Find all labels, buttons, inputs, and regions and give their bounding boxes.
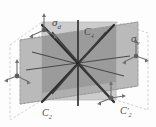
tripod-arrow-up [15, 59, 19, 63]
symmetry-diagram-svg [0, 0, 156, 127]
tripod-origin [15, 74, 20, 79]
label-c2: C2 [42, 108, 52, 120]
label-c2-symbol: C [42, 107, 49, 118]
label-c2-prime-subscript: 2 [129, 111, 132, 118]
label-c2-prime-symbol: C [120, 105, 127, 116]
label-sigma-v-subscript: v [136, 39, 139, 46]
tripod-origin [134, 54, 138, 58]
label-c4-subscript: 4 [91, 32, 94, 39]
label-c4-symbol: C [84, 26, 91, 37]
label-c4: C4 [84, 27, 94, 39]
label-sigma-v: σv [131, 33, 139, 47]
tripod-arrow-up [42, 13, 46, 17]
tripod-arrow-left [4, 79, 8, 83]
label-c2-prime: C′2 [120, 106, 132, 118]
tripod-arrow-left [97, 102, 101, 106]
tripod-origin [42, 28, 46, 32]
label-sigma-d: σd [52, 17, 61, 31]
tripod-arrow-right [122, 94, 126, 98]
figure-canvas: σd C4 σv C2 C′2 [0, 0, 156, 127]
label-sigma-d-subscript: d [57, 23, 60, 30]
label-c2-subscript: 2 [49, 113, 52, 120]
origin-point [76, 61, 79, 64]
tripod-arrow-left [29, 34, 33, 39]
tripod-origin [109, 96, 114, 101]
